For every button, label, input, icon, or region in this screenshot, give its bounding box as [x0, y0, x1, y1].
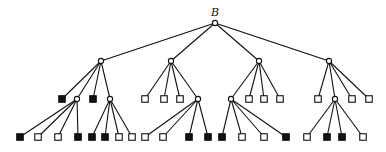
terminal-node-open	[304, 134, 311, 141]
terminal-node-open	[315, 96, 322, 103]
tree-edge	[101, 61, 110, 99]
terminal-node-filled	[59, 96, 66, 103]
terminal-node-open	[261, 134, 268, 141]
decision-node	[98, 58, 103, 63]
terminal-node-open	[116, 134, 123, 141]
terminal-node-open	[129, 134, 136, 141]
game-tree-diagram: B	[0, 0, 386, 152]
terminal-node-open	[142, 134, 149, 141]
terminal-node-filled	[324, 134, 331, 141]
tree-edge	[259, 61, 264, 99]
terminal-node-filled	[205, 134, 212, 141]
terminal-node-filled	[186, 134, 193, 141]
decision-node	[195, 96, 200, 101]
decision-node	[168, 58, 173, 63]
decision-node	[256, 58, 261, 63]
terminal-node-open	[349, 96, 356, 103]
tree-edge	[62, 61, 101, 99]
tree-edge	[38, 99, 77, 137]
tree-edge	[163, 99, 198, 137]
terminal-node-filled	[283, 134, 290, 141]
terminal-node-open	[55, 134, 62, 141]
tree-edge	[215, 23, 329, 61]
tree-nodes	[17, 20, 373, 140]
terminal-node-filled	[219, 134, 226, 141]
tree-edge	[110, 99, 119, 137]
terminal-node-open	[277, 96, 284, 103]
tree-edge	[198, 99, 208, 137]
terminal-node-open	[239, 134, 246, 141]
terminal-node-open	[160, 134, 167, 141]
tree-edge	[249, 61, 259, 99]
tree-edge	[77, 99, 78, 137]
root-label: B	[210, 6, 219, 19]
terminal-node-open	[142, 96, 149, 103]
terminal-node-open	[161, 96, 168, 103]
terminal-node-filled	[75, 134, 82, 141]
terminal-node-open	[35, 134, 42, 141]
tree-edge	[335, 99, 342, 137]
tree-edge	[20, 99, 77, 137]
tree-edge	[231, 61, 259, 99]
tree-edges	[20, 23, 369, 137]
terminal-node-filled	[17, 134, 24, 141]
decision-node	[326, 58, 331, 63]
terminal-node-open	[366, 96, 373, 103]
tree-edge	[222, 99, 231, 137]
tree-edge	[215, 23, 259, 61]
tree-edge	[110, 99, 132, 137]
tree-edge	[335, 99, 363, 137]
tree-edge	[259, 61, 280, 99]
terminal-node-open	[246, 96, 253, 103]
terminal-node-open	[261, 96, 268, 103]
terminal-node-open	[177, 96, 184, 103]
terminal-node-filled	[89, 134, 96, 141]
terminal-node-open	[360, 134, 367, 141]
decision-node	[228, 96, 233, 101]
decision-node	[332, 96, 337, 101]
tree-edge	[171, 23, 215, 61]
root-node	[212, 20, 217, 25]
decision-node	[107, 96, 112, 101]
tree-edge	[318, 61, 329, 99]
terminal-node-filled	[102, 134, 109, 141]
decision-node	[74, 96, 79, 101]
terminal-node-filled	[90, 96, 97, 103]
terminal-node-filled	[339, 134, 346, 141]
tree-edge	[101, 23, 215, 61]
